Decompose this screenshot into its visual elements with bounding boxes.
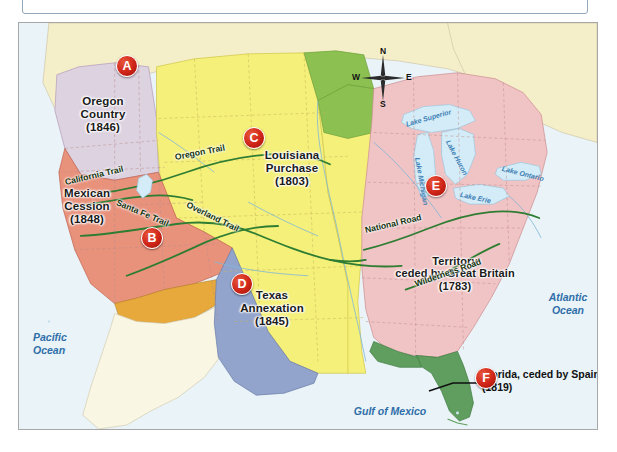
map-canvas: N S W E Oregon Country (1846) Mexican Ce…: [19, 23, 597, 429]
compass-north-label: N: [380, 47, 386, 56]
compass-east-label: E: [406, 73, 412, 82]
water-label-pacific-ocean: Pacific Ocean: [33, 331, 111, 356]
compass-south-label: S: [380, 100, 386, 109]
top-cutoff-panel: [22, 0, 588, 14]
compass-rose: N S W E: [352, 47, 414, 109]
florida-callout-label: Florida, ceded by Spain (1819): [482, 368, 598, 393]
map-marker-a[interactable]: A: [116, 55, 138, 77]
water-label-gulf-of-mexico: Gulf of Mexico: [335, 405, 445, 418]
map-marker-f[interactable]: F: [475, 367, 497, 389]
map-marker-d[interactable]: D: [231, 273, 253, 295]
map-frame: N S W E Oregon Country (1846) Mexican Ce…: [18, 22, 598, 430]
water-label-atlantic-ocean: Atlantic Ocean: [529, 291, 598, 316]
map-marker-e[interactable]: E: [425, 175, 447, 197]
map-marker-b[interactable]: B: [141, 227, 163, 249]
compass-west-label: W: [352, 73, 360, 82]
map-marker-c[interactable]: C: [243, 127, 265, 149]
